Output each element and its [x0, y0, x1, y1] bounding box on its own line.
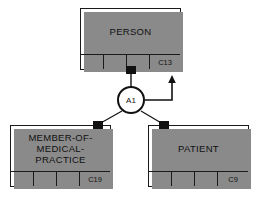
entity-person-name: PERSON — [81, 9, 180, 54]
person-connector-square — [126, 66, 136, 74]
relationship-node-label: A1 — [126, 96, 136, 105]
entity-patient-cell-2[interactable] — [172, 172, 195, 186]
entity-member-cell-3[interactable] — [57, 172, 80, 186]
entity-member-of-medical-practice-footer: C19 — [11, 171, 110, 186]
entity-patient-name: PATIENT — [149, 126, 248, 171]
exclusivity-arrow-head — [168, 75, 176, 83]
exclusivity-arrow-shaft — [145, 80, 172, 100]
entity-patient-footer: C9 — [149, 171, 248, 186]
entity-patient[interactable]: PATIENT C9 — [148, 125, 249, 187]
entity-member-of-medical-practice[interactable]: MEMBER-OF- MEDICAL- PRACTICE C19 — [10, 125, 111, 187]
diagram-canvas: PERSON C13 A1 MEMBER-OF- MEDICAL- PRACTI… — [0, 0, 259, 207]
entity-person-code: C13 — [150, 55, 180, 69]
entity-member-of-medical-practice-name: MEMBER-OF- MEDICAL- PRACTICE — [11, 126, 110, 171]
entity-person-cell-2[interactable] — [104, 55, 127, 69]
entity-person[interactable]: PERSON C13 — [80, 8, 181, 70]
entity-person-cell-1[interactable] — [81, 55, 104, 69]
entity-patient-code: C9 — [218, 172, 248, 186]
entity-member-cell-2[interactable] — [34, 172, 57, 186]
relationship-node-a1[interactable]: A1 — [117, 86, 145, 114]
entity-patient-cell-1[interactable] — [149, 172, 172, 186]
patient-connector-square — [159, 121, 169, 129]
entity-member-of-medical-practice-code: C19 — [80, 172, 110, 186]
entity-member-cell-1[interactable] — [11, 172, 34, 186]
member-connector-square — [93, 121, 103, 129]
entity-patient-cell-3[interactable] — [195, 172, 218, 186]
